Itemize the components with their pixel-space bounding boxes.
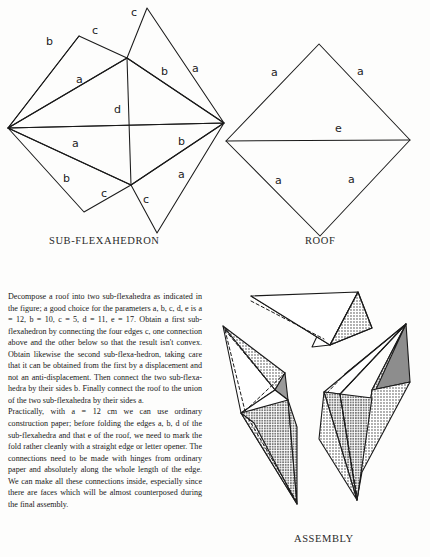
roof-caption: ROOF [305, 235, 335, 246]
subflex-label-a-lower-left: a [72, 137, 79, 150]
subflex-face-upper-left-kite [8, 36, 79, 128]
assembly-piece-top [251, 292, 372, 347]
roof-label-a-bottom-left: a [275, 174, 282, 187]
subflex-face-upper-left [8, 36, 127, 128]
assembly-figure [212, 282, 430, 532]
roof-net [226, 44, 410, 236]
paragraph-2: Practically, with a = 12 cm we can use o… [8, 406, 202, 510]
top-figures-row: c c b a a b d a b c c b a a a [0, 0, 430, 260]
subflex-label-b-lower-right: b [178, 135, 185, 148]
subflex-label-c-lower-center: c [143, 193, 149, 206]
assembly-caption: ASSEMBLY [294, 533, 354, 544]
subflex-label-a-upper-right: a [192, 62, 199, 75]
assembly-piece-left [223, 326, 297, 504]
subflex-label-a-lower-right: a [178, 168, 185, 181]
subflex-label-c-lower-left: c [101, 187, 107, 200]
subflex-edge-d [127, 58, 131, 185]
subflex-label-c-top: c [131, 6, 137, 19]
subflex-face-top-spike [127, 8, 224, 123]
assembly-svg [212, 282, 430, 532]
roof-label-a-top-left: a [271, 66, 278, 79]
roof-label-a-top-right: a [357, 65, 364, 78]
subflex-label-b-upper-right: b [161, 65, 168, 78]
subflexahedron-caption: SUB-FLEXAHEDRON [49, 235, 160, 246]
subflex-label-c-upper-left: c [92, 24, 98, 37]
figure-page: c c b a a b d a b c c b a a a [0, 0, 430, 557]
subflex-label-b-lower-left: b [63, 172, 70, 185]
subflexahedron-labels: c c b a a b d a b c c b a [46, 6, 199, 206]
subflexahedron-net [8, 8, 224, 233]
roof-label-a-bottom-right: a [348, 173, 355, 186]
subflex-face-lower-left [8, 128, 131, 212]
assembly-piece-right [319, 324, 410, 500]
roof-labels: a a e a a [271, 65, 364, 187]
explanatory-text: Decompose a roof into two sub-flexahedra… [8, 291, 202, 510]
paragraph-1: Decompose a roof into two sub-flexahedra… [8, 291, 202, 406]
subflex-label-a-upper-left: a [76, 73, 83, 86]
roof-label-e-middle: e [335, 122, 342, 135]
subflex-label-d-center: d [114, 103, 121, 116]
subflex-label-b-upper-left: b [46, 35, 53, 48]
top-figures-svg: c c b a a b d a b c c b a a a [0, 0, 430, 260]
roof-edge-e [226, 140, 410, 141]
